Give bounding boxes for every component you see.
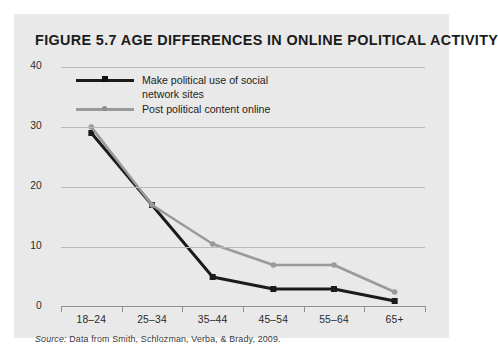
figure-title-text: FIGURE 5.7 AGE DIFFERENCES IN ONLINE POL…	[35, 32, 498, 48]
data-point-square	[210, 274, 216, 280]
gridline	[61, 247, 425, 248]
y-tick-label: 20	[16, 180, 42, 191]
source-label: Source:	[35, 334, 67, 344]
y-tick-label: 10	[16, 240, 42, 251]
x-tick-label: 45–54	[245, 314, 301, 325]
data-point-square	[331, 286, 337, 292]
data-point-circle	[392, 289, 398, 295]
gridline	[61, 67, 425, 68]
x-tick-label: 65+	[367, 314, 423, 325]
y-tick-label: 30	[16, 120, 42, 131]
x-tick-label: 18–24	[63, 314, 119, 325]
x-tick-mark	[364, 306, 365, 312]
x-tick-label: 25–34	[124, 314, 180, 325]
x-tick-mark	[243, 306, 244, 312]
source-note: Source: Data from Smith, Schlozman, Verb…	[35, 334, 281, 344]
legend-item-social-network: Make political use of social network sit…	[76, 74, 270, 101]
gridline	[61, 127, 425, 128]
legend-square-marker-icon	[102, 76, 108, 82]
data-point-square	[392, 298, 398, 304]
y-tick-label: 0	[16, 300, 42, 311]
gridline	[61, 187, 425, 188]
data-point-circle	[149, 202, 155, 208]
x-tick-label: 55–64	[306, 314, 362, 325]
x-tick-label: 35–44	[185, 314, 241, 325]
legend-label-line2: network sites	[142, 88, 204, 100]
data-point-circle	[331, 262, 337, 268]
data-point-circle	[210, 241, 216, 247]
figure-title: FIGURE 5.7 AGE DIFFERENCES IN ONLINE POL…	[35, 32, 498, 48]
series-line	[91, 127, 394, 292]
legend-label-line1: Make political use of social	[142, 74, 268, 86]
figure-panel: FIGURE 5.7 AGE DIFFERENCES IN ONLINE POL…	[14, 14, 449, 338]
x-tick-mark	[182, 306, 183, 312]
legend-circle-marker-icon	[102, 106, 107, 111]
x-tick-mark	[304, 306, 305, 312]
y-tick-label: 40	[16, 60, 42, 71]
data-point-circle	[271, 262, 277, 268]
legend-item-post-content: Post political content online	[76, 103, 270, 117]
chart-legend: Make political use of social network sit…	[76, 74, 270, 119]
legend-label-post-content: Post political content online	[142, 103, 270, 117]
data-point-square	[270, 286, 276, 292]
series-line	[91, 133, 394, 301]
x-tick-mark	[61, 306, 62, 312]
x-tick-mark	[122, 306, 123, 312]
x-tick-mark	[425, 306, 426, 312]
source-text: Data from Smith, Schlozman, Verba, & Bra…	[67, 334, 281, 344]
